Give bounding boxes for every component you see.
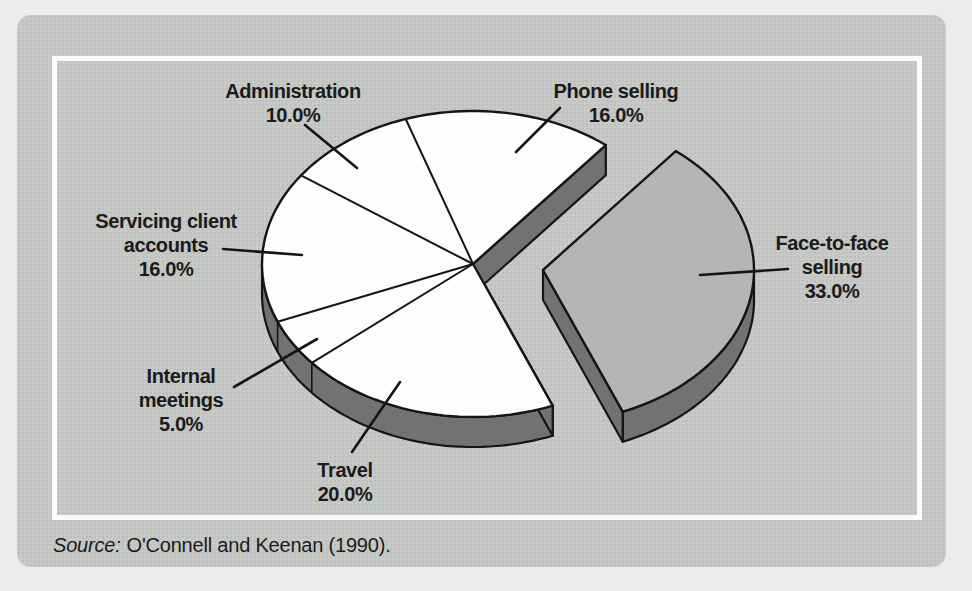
slice-label-face-to-face-selling: Face-to-face selling 33.0%: [712, 231, 952, 303]
slice-label-administration: Administration 10.0%: [173, 79, 413, 127]
source-caption-prefix: Source:: [53, 534, 121, 556]
slice-percent: 10.0%: [173, 103, 413, 127]
slice-label-text: Administration: [173, 79, 413, 103]
slice-label-text: Servicing client: [46, 209, 286, 233]
figure-page: Administration 10.0% Phone selling 16.0%…: [0, 0, 972, 591]
slice-percent: 33.0%: [712, 279, 952, 303]
slice-percent: 5.0%: [61, 412, 301, 436]
slice-label-phone-selling: Phone selling 16.0%: [496, 79, 736, 127]
source-caption: Source:O'Connell and Keenan (1990).: [53, 534, 391, 557]
slice-label-text: Travel: [225, 458, 465, 482]
slice-label-text: selling: [712, 255, 952, 279]
slice-label-servicing-client-accounts: Servicing client accounts 16.0%: [46, 209, 286, 281]
slice-percent: 16.0%: [46, 257, 286, 281]
slice-percent: 16.0%: [496, 103, 736, 127]
slice-label-travel: Travel 20.0%: [225, 458, 465, 506]
slice-label-text: Internal: [61, 364, 301, 388]
slice-label-text: Face-to-face: [712, 231, 952, 255]
source-caption-text: O'Connell and Keenan (1990).: [127, 534, 391, 556]
slice-label-text: meetings: [61, 388, 301, 412]
slice-percent: 20.0%: [225, 482, 465, 506]
slice-label-text: accounts: [46, 233, 286, 257]
slice-label-internal-meetings: Internal meetings 5.0%: [61, 364, 301, 436]
slice-label-text: Phone selling: [496, 79, 736, 103]
